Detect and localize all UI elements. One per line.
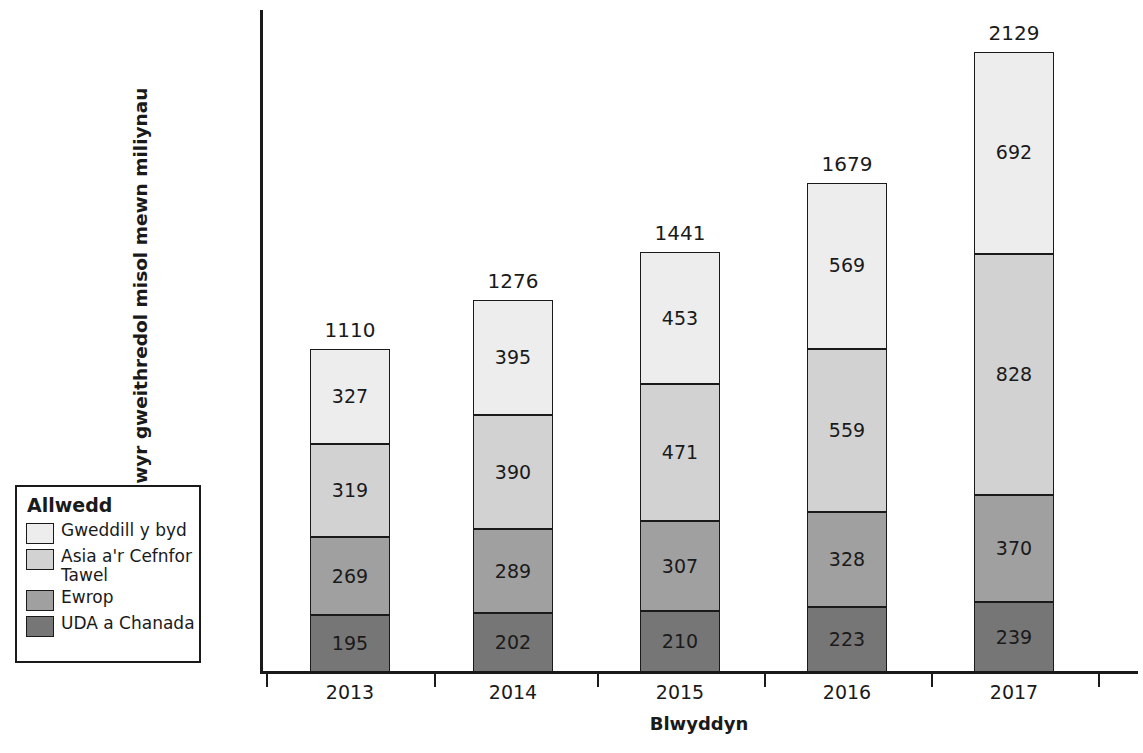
bar-segment-value-label: 307 xyxy=(662,557,698,576)
x-axis-tick-label: 2016 xyxy=(767,681,927,703)
bar-total-label: 1110 xyxy=(270,318,430,342)
bar-total-label: 2129 xyxy=(934,21,1094,45)
x-axis-tick xyxy=(266,674,268,687)
bar-segment-value-label: 327 xyxy=(332,387,368,406)
x-axis-tick-label: 2015 xyxy=(600,681,760,703)
bar-segment: 223 xyxy=(807,607,887,672)
bar-segment: 828 xyxy=(974,254,1054,495)
bar-segment: 319 xyxy=(310,444,390,537)
legend-swatch xyxy=(26,549,54,570)
legend-entry: Asia a'r Cefnfor Tawel xyxy=(26,547,199,585)
bar-segment-value-label: 202 xyxy=(495,633,531,652)
bar-segment-value-label: 289 xyxy=(495,562,531,581)
bar-segment-value-label: 453 xyxy=(662,309,698,328)
bar-segment: 202 xyxy=(473,613,553,672)
bar-segment-value-label: 395 xyxy=(495,348,531,367)
legend-swatch xyxy=(26,523,54,544)
bar-segment: 289 xyxy=(473,529,553,613)
bar-segment-value-label: 390 xyxy=(495,463,531,482)
legend-entry: Ewrop xyxy=(26,588,199,611)
bar-segment: 307 xyxy=(640,521,720,610)
bar-segment-value-label: 828 xyxy=(996,365,1032,384)
bar-segment-value-label: 569 xyxy=(829,256,865,275)
x-axis-tick xyxy=(931,674,933,687)
bar-segment-value-label: 223 xyxy=(829,630,865,649)
bar-segment-value-label: 471 xyxy=(662,443,698,462)
x-axis-tick xyxy=(764,674,766,687)
bar-segment-value-label: 319 xyxy=(332,481,368,500)
bar-segment: 370 xyxy=(974,495,1054,603)
bar-segment-value-label: 269 xyxy=(332,567,368,586)
bar-segment: 453 xyxy=(640,252,720,384)
legend-entries: Gweddill y bydAsia a'r Cefnfor TawelEwro… xyxy=(26,521,199,637)
bar-segment: 569 xyxy=(807,183,887,349)
x-axis-tick-label: 2013 xyxy=(270,681,430,703)
bar-segment-value-label: 370 xyxy=(996,539,1032,558)
x-axis-tick xyxy=(1098,674,1100,687)
legend-entry-label: Gweddill y byd xyxy=(61,521,187,540)
x-axis-tick xyxy=(597,674,599,687)
stacked-bar-chart: Defnyddwyr gweithredol misol mewn miliyn… xyxy=(0,0,1143,753)
legend-entry-label: UDA a Chanada xyxy=(61,614,195,633)
legend-entry-label: Ewrop xyxy=(61,588,113,607)
bar-segment: 471 xyxy=(640,384,720,521)
bar-segment-value-label: 195 xyxy=(332,634,368,653)
bar-total-label: 1679 xyxy=(767,152,927,176)
y-axis-line xyxy=(260,10,263,673)
bar-segment: 692 xyxy=(974,52,1054,254)
bar-segment: 210 xyxy=(640,611,720,672)
legend-entry: UDA a Chanada xyxy=(26,614,199,637)
bar-segment: 195 xyxy=(310,615,390,672)
bar-total-label: 1441 xyxy=(600,221,760,245)
bar-segment-value-label: 559 xyxy=(829,421,865,440)
bar-segment-value-label: 692 xyxy=(996,143,1032,162)
bar-segment: 239 xyxy=(974,602,1054,672)
x-axis-tick-label: 2014 xyxy=(433,681,593,703)
bar-segment-value-label: 328 xyxy=(829,550,865,569)
bar-segment: 395 xyxy=(473,300,553,415)
legend-entry: Gweddill y byd xyxy=(26,521,199,544)
legend-entry-label: Asia a'r Cefnfor Tawel xyxy=(61,547,199,585)
bar-segment: 559 xyxy=(807,349,887,512)
bar-segment: 328 xyxy=(807,512,887,608)
bar-segment: 327 xyxy=(310,349,390,444)
bar-segment-value-label: 239 xyxy=(996,628,1032,647)
bar-segment-value-label: 210 xyxy=(662,632,698,651)
legend-swatch xyxy=(26,616,54,637)
x-axis-tick-label: 2017 xyxy=(934,681,1094,703)
legend-box: Allwedd Gweddill y bydAsia a'r Cefnfor T… xyxy=(15,485,201,663)
legend-title: Allwedd xyxy=(27,494,199,516)
bar-total-label: 1276 xyxy=(433,269,593,293)
bar-segment: 390 xyxy=(473,415,553,529)
bar-segment: 269 xyxy=(310,537,390,615)
legend-swatch xyxy=(26,590,54,611)
x-axis-title: Blwyddyn xyxy=(260,713,1138,734)
